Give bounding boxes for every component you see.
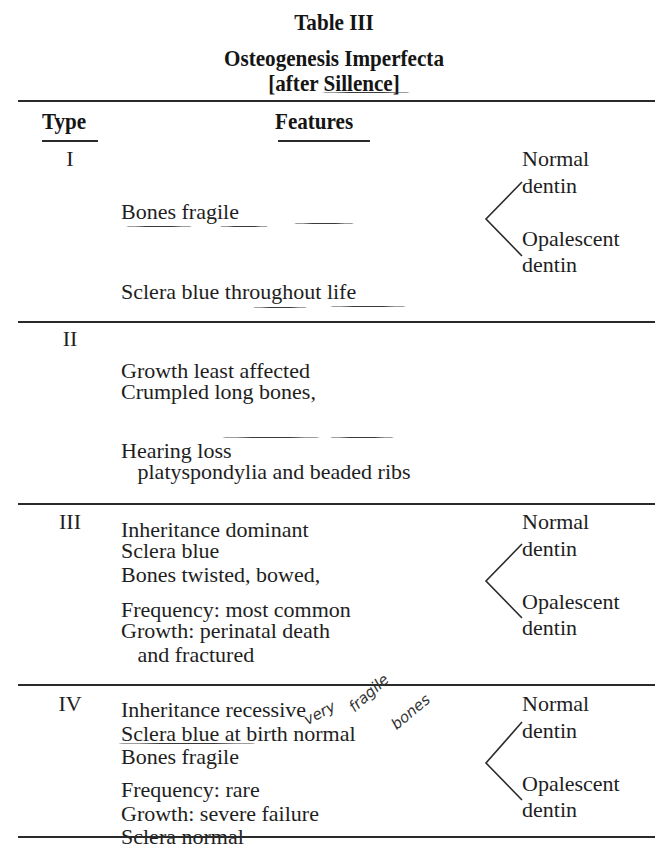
feature-item: Bones twisted, bowed, (121, 562, 356, 589)
underline-least (220, 226, 268, 227)
feature-item: Bones fragile (121, 744, 345, 771)
top-rule (18, 100, 655, 102)
dentin-item: Normal (522, 691, 620, 718)
dentin-item (522, 562, 620, 589)
dentin-item: Opalescent (522, 589, 620, 616)
feature-item: Sclera blue throughout life (121, 279, 356, 306)
dentin-item: Opalescent (522, 771, 620, 798)
type-label: III (40, 509, 100, 536)
dentin-list: Normal dentin Opalescent dentin (522, 691, 620, 824)
dentin-item: dentin (522, 615, 620, 642)
underline-growth (126, 226, 192, 227)
type-label: I (40, 146, 100, 173)
type-label: II (40, 326, 100, 353)
feature-item: Bones fragile (121, 199, 356, 226)
table-title: Osteogenesis Imperfecta (40, 46, 628, 70)
row-divider (18, 503, 655, 505)
dentin-item: dentin (522, 252, 620, 279)
dentin-item (522, 744, 620, 771)
header-features: Features (275, 109, 353, 133)
underline-most (253, 307, 307, 308)
dentin-item: dentin (522, 718, 620, 745)
dentin-item: Normal (522, 509, 620, 536)
feature-item: Sclera normal (121, 824, 345, 846)
feature-item: platyspondylia and beaded ribs (121, 459, 411, 486)
underline-sillence (322, 92, 410, 93)
underline-sclera-normal (118, 743, 256, 744)
feature-item: and fractured (121, 642, 356, 669)
header-type-rule (42, 140, 98, 142)
row-divider (18, 684, 655, 686)
dentin-item: dentin (522, 797, 620, 824)
table-label: Table III (40, 10, 628, 34)
dentin-item: Opalescent (522, 226, 620, 253)
underline-common (330, 306, 406, 307)
header-features-rule (278, 140, 370, 142)
bottom-rule (18, 836, 655, 838)
header-type: Type (42, 109, 86, 133)
feature-item: Crumpled long bones, (121, 379, 411, 406)
dentin-list: Normal dentin Opalescent dentin (522, 509, 620, 642)
dentin-item: dentin (522, 173, 620, 200)
dentin-item: Normal (522, 146, 620, 173)
underline-perinatal (222, 437, 320, 438)
dentin-item (522, 199, 620, 226)
type-label: IV (40, 691, 100, 718)
dentin-list: Normal dentin Opalescent dentin (522, 146, 620, 279)
dentin-item: dentin (522, 536, 620, 563)
row-divider (18, 321, 655, 323)
underline-affected (294, 223, 354, 224)
underline-death (330, 437, 394, 438)
